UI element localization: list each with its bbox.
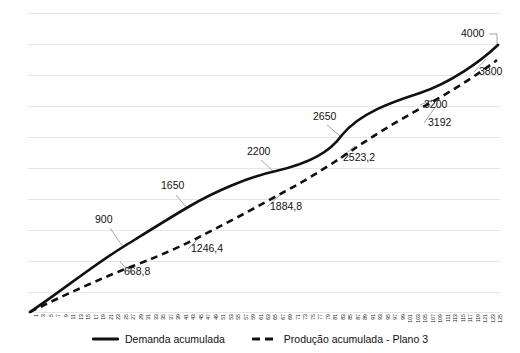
- x-axis-tick-label: 17: [94, 314, 99, 320]
- x-axis-tick-label: 7: [56, 314, 61, 317]
- series-line-demanda-acumulada: [30, 45, 498, 312]
- x-axis-tick-label: 23: [116, 314, 121, 320]
- x-axis-tick-label: 55: [236, 314, 241, 320]
- x-axis-tick-label: 5: [49, 314, 54, 317]
- x-axis-tick-label: 31: [146, 314, 151, 320]
- x-axis-tick-label: 97: [393, 314, 398, 320]
- x-axis-tick-label: 29: [139, 314, 144, 320]
- legend-label-demanda-acumulada: Demanda acumulada: [125, 333, 225, 345]
- x-axis-tick-label: 47: [206, 314, 211, 320]
- x-axis-tick-label: 35: [161, 314, 166, 320]
- x-axis-tick-label: 13: [79, 314, 84, 320]
- data-label-producao-3192: 3192: [428, 117, 451, 128]
- x-axis-tick-label: 115: [461, 314, 466, 322]
- leader-lines: [110, 34, 497, 274]
- x-axis-tick-label: 75: [311, 314, 316, 320]
- x-axis-tick-label: 11: [71, 314, 76, 319]
- plot-area: [0, 0, 520, 353]
- x-axis-tick-label: 73: [303, 314, 308, 320]
- data-label-demanda-900: 900: [95, 214, 113, 225]
- data-label-producao-668-8: 668,8: [124, 266, 150, 277]
- line-chart: 900 668,8 1650 1246,4 2200 1884,8 2650 2…: [0, 0, 520, 353]
- x-axis-tick-label: 1: [34, 314, 39, 317]
- x-axis-tick-label: 125: [498, 314, 503, 323]
- x-axis-tick-label: 43: [191, 314, 196, 320]
- data-label-demanda-3200: 3200: [424, 99, 447, 110]
- x-axis-tick-label: 121: [483, 314, 488, 323]
- x-axis-tick-label: 99: [401, 314, 406, 320]
- x-axis-tick-label: 93: [378, 314, 383, 320]
- x-axis-tick-label: 65: [273, 314, 278, 320]
- legend-swatch-solid-icon: [92, 334, 119, 344]
- x-axis-tick-label: 111: [446, 314, 451, 322]
- legend-swatch-dashed-icon: [251, 334, 278, 344]
- x-axis-tick-label: 79: [326, 314, 331, 320]
- data-label-producao-3800: 3800: [479, 66, 502, 77]
- x-axis-tick-label: 91: [371, 314, 376, 320]
- x-axis-tick-label: 119: [476, 314, 481, 322]
- x-axis-tick-label: 15: [86, 314, 91, 320]
- x-axis-tick-label: 61: [259, 314, 264, 320]
- x-axis-tick-label: 49: [214, 314, 219, 320]
- x-axis-tick-label: 71: [296, 314, 301, 320]
- x-axis-tick-label: 87: [356, 314, 361, 320]
- x-axis-tick-label: 3: [41, 314, 46, 317]
- x-axis-tick-label: 27: [131, 314, 136, 320]
- x-axis-tick-label: 53: [229, 314, 234, 320]
- x-axis-tick-label: 37: [169, 314, 174, 320]
- data-label-producao-1884-8: 1884,8: [270, 201, 302, 212]
- x-axis-tick-label: 57: [244, 314, 249, 320]
- legend-item-demanda-acumulada[interactable]: Demanda acumulada: [92, 333, 225, 345]
- x-axis-tick-label: 63: [266, 314, 271, 320]
- x-axis-tick-label: 41: [184, 314, 189, 320]
- legend-label-producao-acumulada-plano-3: Produção acumulada - Plano 3: [284, 333, 428, 345]
- x-axis-tick-label: 51: [221, 314, 226, 320]
- x-axis-tick-label: 107: [431, 314, 436, 323]
- x-axis-tick-label: 19: [101, 314, 106, 320]
- legend-item-producao-acumulada-plano-3[interactable]: Produção acumulada - Plano 3: [251, 333, 428, 345]
- chart-legend: Demanda acumulada Produção acumulada - P…: [0, 333, 520, 345]
- x-axis-tick-label: 45: [199, 314, 204, 320]
- x-axis-tick-label: 33: [154, 314, 159, 320]
- data-label-producao-2523-2: 2523,2: [343, 152, 375, 163]
- leader-line-2650: [327, 125, 340, 136]
- x-axis-tick-label: 117: [468, 314, 473, 322]
- x-axis-tick-label: 83: [341, 314, 346, 320]
- data-label-demanda-1650: 1650: [161, 180, 184, 191]
- x-axis-tick-label: 59: [251, 314, 256, 320]
- x-axis-tick-label: 25: [124, 314, 129, 320]
- x-axis-tick-label: 123: [491, 314, 496, 323]
- x-axis-tick-label: 81: [333, 314, 338, 320]
- x-axis-tick-label: 69: [288, 314, 293, 320]
- x-axis-tick-label: 67: [281, 314, 286, 320]
- data-label-demanda-4000: 4000: [461, 28, 484, 39]
- data-label-demanda-2650: 2650: [313, 111, 336, 122]
- x-axis-tick-label: 105: [423, 314, 428, 323]
- x-axis-tick-label: 103: [416, 314, 421, 323]
- leader-line-2200: [261, 160, 274, 172]
- x-axis-tick-label: 109: [438, 314, 443, 323]
- x-axis-tick-label: 89: [363, 314, 368, 320]
- x-axis-tick-label: 85: [348, 314, 353, 320]
- x-axis-tick-label: 113: [453, 314, 458, 322]
- x-axis-tick-label: 39: [176, 314, 181, 320]
- data-label-demanda-2200: 2200: [247, 146, 270, 157]
- x-axis-tick-label: 77: [318, 314, 323, 320]
- x-axis-tick-label: 9: [64, 314, 69, 317]
- x-axis-tick-label: 95: [386, 314, 391, 320]
- x-axis-tick-label: 21: [109, 314, 114, 320]
- data-label-producao-1246-4: 1246,4: [191, 243, 223, 254]
- x-axis-tick-label: 101: [408, 314, 413, 323]
